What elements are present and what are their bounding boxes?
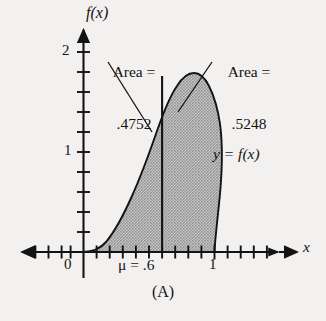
mean-label: μ = .6 xyxy=(118,256,154,273)
left-area-annotation: Area = .4752 xyxy=(96,28,172,167)
y-tick-label-1: 1 xyxy=(64,142,72,159)
y-tick-label-2: 2 xyxy=(62,42,70,59)
left-area-line-1: Area = xyxy=(96,63,172,80)
right-area-line-1: Area = xyxy=(211,63,287,80)
figure-container: f(x) 2 1 0 1 μ = .6 x Area = .4752 Area … xyxy=(0,0,326,321)
x-axis-label: x xyxy=(303,238,310,255)
x-tick-label-1: 1 xyxy=(209,256,217,273)
curve-label: y = f(x) xyxy=(213,145,260,162)
origin-label: 0 xyxy=(64,256,72,273)
y-axis-label: f(x) xyxy=(86,4,108,22)
right-area-line-2: .5248 xyxy=(211,115,287,132)
figure-caption: (A) xyxy=(0,283,326,301)
left-area-line-2: .4752 xyxy=(96,115,172,132)
